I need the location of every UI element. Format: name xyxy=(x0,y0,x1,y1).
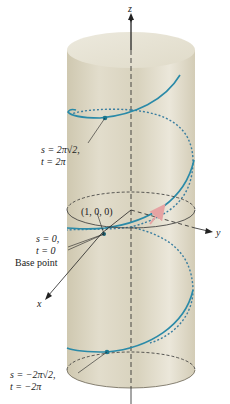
label-bottom-s: s = −2π√2, xyxy=(10,369,55,380)
label-top-s: s = 2π√2, xyxy=(41,144,80,155)
label-base-s: s = 0, xyxy=(36,233,59,244)
x-axis-label: x xyxy=(36,298,42,309)
z-arrow-icon xyxy=(128,13,134,20)
z-axis-label: z xyxy=(127,3,132,14)
label-base-t: t = 0 xyxy=(36,245,56,256)
x-arrow-icon xyxy=(45,292,52,300)
label-bottom-t: t = −2π xyxy=(10,381,42,392)
helix-figure: z y x s xyxy=(0,0,230,404)
y-axis-label: y xyxy=(215,227,221,238)
label-base-caption: Base point xyxy=(15,257,58,268)
label-origin-coord: (1, 0, 0) xyxy=(81,206,113,218)
label-top-t: t = 2π xyxy=(41,156,67,167)
y-arrow-icon xyxy=(205,228,213,234)
